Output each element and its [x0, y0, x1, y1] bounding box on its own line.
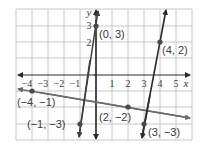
x-tick-neg3: −3 [38, 78, 49, 89]
x-tick-neg1: −1 [70, 78, 81, 89]
label-2-neg2: (2, −2) [99, 111, 131, 123]
point-neg1-neg3 [77, 121, 82, 126]
label-neg1-neg3: (−1, −3) [27, 118, 66, 130]
point-2-neg2 [125, 104, 130, 109]
x-tick-neg4: −4 [22, 78, 33, 89]
point-0-3 [93, 23, 98, 28]
x-axis-label: x [183, 77, 189, 89]
label-0-3: (0, 3) [99, 28, 125, 40]
y-tick-3: 3 [87, 20, 92, 31]
coordinate-graph: −4 −3 −2 −1 1 2 3 4 5 x y 3 2 (0, 3) [0, 0, 202, 154]
point-neg4-neg1 [29, 88, 34, 93]
label-3-neg3: (3, −3) [148, 126, 180, 138]
label-4-2: (4, 2) [162, 44, 188, 56]
x-tick-5: 5 [174, 78, 179, 89]
x-tick-2: 2 [126, 78, 131, 89]
point-3-neg3 [141, 121, 146, 126]
x-tick-1: 1 [110, 78, 115, 89]
x-tick-neg2: −2 [54, 78, 65, 89]
y-tick-labels: y 3 2 [86, 6, 92, 48]
x-tick-3: 3 [142, 78, 147, 89]
y-tick-2: 2 [87, 37, 92, 48]
x-tick-4: 4 [158, 78, 163, 89]
y-axis-label: y [86, 6, 92, 18]
label-neg4-neg1: (−4, −1) [17, 96, 56, 108]
x-tick-labels: −4 −3 −2 −1 1 2 3 4 5 x [22, 77, 189, 89]
